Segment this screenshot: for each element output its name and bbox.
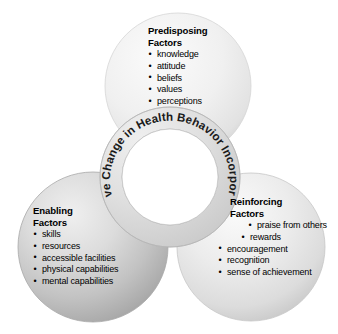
list-item: skills: [33, 229, 118, 240]
list-item: accessible facilities: [33, 253, 118, 264]
predisposing-title-line2: Factors: [148, 37, 208, 49]
list-item: values: [148, 84, 208, 95]
factor-block-reinforcing: Reinforcing Factors praise from others r…: [230, 196, 327, 278]
predisposing-title-line1: Predisposing: [148, 25, 208, 37]
list-item: sense of achievement: [218, 267, 327, 278]
ring-inner-hole: [122, 129, 218, 225]
list-item: recognition: [218, 255, 327, 266]
factor-block-enabling: Enabling Factors skills resources access…: [33, 205, 118, 287]
list-item: praise from others: [230, 220, 327, 231]
predisposing-item-list: knowledge attitude beliefs values percep…: [148, 49, 208, 107]
list-item: attitude: [148, 61, 208, 72]
list-item: knowledge: [148, 49, 208, 60]
list-item: perceptions: [148, 96, 208, 107]
list-item: beliefs: [148, 73, 208, 84]
list-item: physical capabilities: [33, 264, 118, 275]
enabling-title-line1: Enabling: [33, 205, 118, 217]
reinforcing-title-line2: Factors: [230, 208, 327, 220]
factor-block-predisposing: Predisposing Factors knowledge attitude …: [148, 25, 208, 107]
reinforcing-item-list: praise from others rewards encouragement…: [230, 220, 327, 278]
list-item: encouragement: [218, 244, 327, 255]
enabling-item-list: skills resources accessible facilities p…: [33, 229, 118, 287]
list-item: resources: [33, 241, 118, 252]
list-item: mental capabilities: [33, 276, 118, 287]
enabling-title-line2: Factors: [33, 217, 118, 229]
list-item: rewards: [230, 232, 327, 243]
health-behavior-venn-diagram: Positive Change in Health Behavior Incor…: [0, 0, 338, 334]
reinforcing-title-line1: Reinforcing: [230, 196, 327, 208]
